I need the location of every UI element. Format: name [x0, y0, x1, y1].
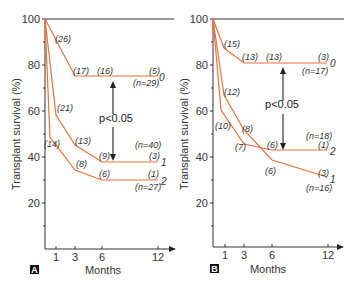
y-axis-label: Transplant survival (%) — [178, 78, 190, 190]
label-b1-12: (3) — [318, 168, 329, 178]
label-a0-1: (26) — [55, 34, 71, 44]
label-a1-1: (21) — [57, 103, 73, 113]
y-tick-80: 80 — [28, 59, 40, 71]
label-b1-3: (8) — [242, 124, 253, 134]
curve-name-b0: 0 — [330, 58, 336, 69]
label-b1-1: (12) — [224, 87, 240, 97]
label-b2-1: (10) — [215, 121, 231, 131]
x-tick-1: 1 — [222, 249, 228, 261]
x-tick-6: 6 — [99, 251, 105, 263]
label-a1-12: (3) — [149, 151, 160, 161]
n-label-a1: (n=40) — [135, 140, 161, 150]
x-tick-3: 3 — [241, 249, 247, 261]
curve-name-a2: 2 — [160, 176, 167, 187]
panel-b-tag-text: B — [211, 264, 218, 274]
panel-b: Transplant survival (%) 100 80 60 40 20 … — [178, 13, 344, 275]
label-b0-3: (13) — [242, 52, 258, 62]
x-tick-6: 6 — [269, 249, 275, 261]
x-tick-12: 12 — [152, 251, 164, 263]
arrow-up-icon — [280, 67, 286, 74]
label-a1-6: (9) — [99, 151, 110, 161]
survival-figure: Transplant survival (%) 100 80 60 40 20 … — [0, 0, 360, 290]
label-b2-12: (1) — [318, 140, 329, 150]
y-tick-40: 40 — [28, 151, 40, 163]
x-axis-label: Months — [250, 263, 287, 275]
label-a1-3: (13) — [75, 136, 91, 146]
label-a2-1: (14) — [44, 139, 60, 149]
panel-a-tag-text: A — [31, 265, 38, 275]
curve-name-b1: 1 — [330, 174, 336, 185]
panel-a: Transplant survival (%) 100 80 60 40 20 … — [10, 13, 176, 276]
x-axis-arrow-icon — [337, 244, 344, 250]
y-tick-100: 100 — [190, 13, 208, 25]
y-tick-60: 60 — [28, 105, 40, 117]
x-tick-1: 1 — [53, 251, 59, 263]
label-a2-3: (8) — [76, 159, 87, 169]
x-axis-label: Months — [85, 264, 122, 276]
label-b0-6: (13) — [266, 52, 282, 62]
n-label-a0: (n=29) — [133, 78, 159, 88]
label-a0-6: (16) — [97, 66, 113, 76]
label-b2-3: (7) — [235, 142, 246, 152]
label-b0-12: (3) — [318, 52, 329, 62]
y-tick-80: 80 — [196, 59, 208, 71]
label-a0-3: (17) — [73, 66, 89, 76]
y-tick-40: 40 — [196, 151, 208, 163]
y-tick-20: 20 — [28, 197, 40, 209]
curve-name-b2: 2 — [329, 146, 336, 157]
y-tick-60: 60 — [196, 105, 208, 117]
x-axis-arrow-icon — [169, 246, 176, 252]
y-axis-label: Transplant survival (%) — [10, 78, 22, 190]
n-label-a2: (n=27) — [135, 182, 161, 192]
x-tick-12: 12 — [322, 249, 334, 261]
y-tick-20: 20 — [196, 197, 208, 209]
label-a2-6: (6) — [99, 169, 110, 179]
p-value-label: p<0.05 — [99, 112, 133, 124]
n-label-b0: (n=17) — [302, 66, 328, 76]
label-a2-12: (1) — [148, 169, 159, 179]
n-label-b1: (n=16) — [306, 183, 332, 193]
label-b1-6: (6) — [265, 166, 276, 176]
label-b0-1: (15) — [224, 39, 240, 49]
arrow-down-icon — [110, 154, 116, 161]
p-value-label: p<0.05 — [265, 98, 299, 110]
label-b2-6: (6) — [267, 140, 278, 150]
curve-name-a1: 1 — [161, 157, 167, 168]
y-tick-100: 100 — [22, 13, 40, 25]
arrow-up-icon — [110, 81, 116, 88]
x-tick-3: 3 — [72, 251, 78, 263]
arrow-down-icon — [280, 143, 286, 150]
n-label-b2: (n=18) — [306, 131, 332, 141]
curve-name-a0: 0 — [159, 72, 165, 83]
